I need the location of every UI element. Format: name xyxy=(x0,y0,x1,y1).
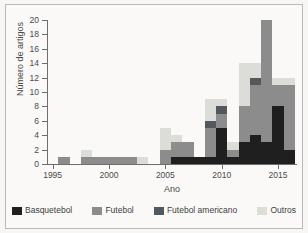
y-axis-tick-label: 0 xyxy=(15,160,39,168)
legend-swatch-icon xyxy=(12,207,22,215)
bar-stack xyxy=(160,128,171,164)
y-axis-tick-label: 20 xyxy=(15,16,39,24)
bar-segment xyxy=(250,135,261,164)
x-axis-tick xyxy=(53,165,54,169)
legend-label: Basquetebol xyxy=(25,206,72,215)
bar-segment xyxy=(81,157,92,164)
bar-stack xyxy=(284,78,295,164)
bar-segment xyxy=(227,150,238,157)
bar-segment xyxy=(126,157,137,164)
bar-segment xyxy=(284,78,295,85)
bar-segment xyxy=(261,20,272,142)
y-axis-tick-label: 6 xyxy=(15,117,39,125)
bar-segment xyxy=(216,106,227,113)
bar-stack xyxy=(58,157,69,164)
legend-item-4[interactable]: Outros xyxy=(257,206,296,215)
bar-segment xyxy=(216,114,227,128)
bar-stack xyxy=(171,135,182,164)
bar-stack xyxy=(216,99,227,164)
bar-segment xyxy=(239,142,250,164)
bar-segment xyxy=(137,157,148,164)
legend-label: Futebol xyxy=(105,206,133,215)
bar-segment xyxy=(171,135,182,142)
bar-segment xyxy=(160,128,171,150)
bar-stack xyxy=(272,78,283,164)
y-axis-tick-label: 4 xyxy=(15,131,39,139)
bar-segment xyxy=(194,157,205,164)
bar-segment xyxy=(261,142,272,164)
bar-segment xyxy=(272,106,283,164)
legend-item-1[interactable]: Basquetebol xyxy=(12,206,72,215)
bar-segment xyxy=(250,85,261,135)
x-axis-line xyxy=(47,164,297,165)
x-axis-tick-label: 1995 xyxy=(36,170,70,180)
bar-segment xyxy=(239,63,250,106)
bar-segment xyxy=(171,157,182,164)
legend-item-3[interactable]: Futebol americano xyxy=(154,206,237,215)
bar-segment xyxy=(239,106,250,142)
bar-segment xyxy=(216,128,227,164)
bar-stack xyxy=(103,157,114,164)
bar-stack xyxy=(92,157,103,164)
x-axis-tick xyxy=(278,165,279,169)
bar-segment xyxy=(205,99,216,121)
bar-stack xyxy=(250,63,261,164)
y-axis-tick-label: 10 xyxy=(15,88,39,96)
legend-swatch-icon xyxy=(92,207,102,215)
bar-stack xyxy=(227,142,238,164)
legend-item-2[interactable]: Futebol xyxy=(92,206,133,215)
bar-stack xyxy=(194,157,205,164)
bar-segment xyxy=(272,78,283,85)
y-axis-tick-label: 14 xyxy=(15,59,39,67)
y-axis-tick-label: 2 xyxy=(15,146,39,154)
bar-stack xyxy=(81,150,92,164)
bar-segment xyxy=(115,157,126,164)
legend-label: Outros xyxy=(270,206,296,215)
legend-label: Futebol americano xyxy=(167,206,237,215)
x-axis-tick xyxy=(165,165,166,169)
chart-legend: BasquetebolFutebolFutebol americanoOutro… xyxy=(12,206,296,215)
bar-segment xyxy=(182,142,193,156)
bar-segment xyxy=(272,85,283,107)
bar-segment xyxy=(227,142,238,149)
bar-segment xyxy=(81,150,92,157)
bar-stack xyxy=(182,142,193,164)
bar-stack xyxy=(261,20,272,164)
bar-segment xyxy=(284,150,295,164)
y-axis-tick-label: 18 xyxy=(15,30,39,38)
bar-segment xyxy=(284,85,295,150)
bar-segment xyxy=(160,150,171,164)
bar-stack xyxy=(115,157,126,164)
x-axis-tick xyxy=(222,165,223,169)
y-axis-tick-label: 8 xyxy=(15,102,39,110)
y-axis-tick xyxy=(42,164,47,165)
y-axis-tick-label: 12 xyxy=(15,74,39,82)
bar-stack xyxy=(239,63,250,164)
y-axis-tick-label: 16 xyxy=(15,45,39,53)
figure: Número de artigos 02468101214161820 1995… xyxy=(0,0,308,233)
x-axis-tick-label: 2005 xyxy=(148,170,182,180)
bar-segment xyxy=(58,157,69,164)
bar-segment xyxy=(171,142,182,156)
x-axis-tick xyxy=(109,165,110,169)
plot-area xyxy=(47,20,295,164)
bar-segment xyxy=(103,157,114,164)
bar-stack xyxy=(137,157,148,164)
legend-swatch-icon xyxy=(257,207,267,215)
bar-segment xyxy=(182,157,193,164)
bar-segment xyxy=(205,128,216,157)
bar-stack xyxy=(205,99,216,164)
bar-segment xyxy=(92,157,103,164)
x-axis-title: Ano xyxy=(47,184,297,194)
x-axis-tick-label: 2015 xyxy=(261,170,295,180)
x-axis-tick-label: 2010 xyxy=(205,170,239,180)
bar-segment xyxy=(227,157,238,164)
bars-layer xyxy=(47,20,295,164)
bar-stack xyxy=(126,157,137,164)
bar-segment xyxy=(205,157,216,164)
bar-segment xyxy=(216,99,227,106)
x-axis-tick-label: 2000 xyxy=(92,170,126,180)
bar-segment xyxy=(250,63,261,77)
bar-segment xyxy=(250,78,261,85)
legend-swatch-icon xyxy=(154,207,164,215)
